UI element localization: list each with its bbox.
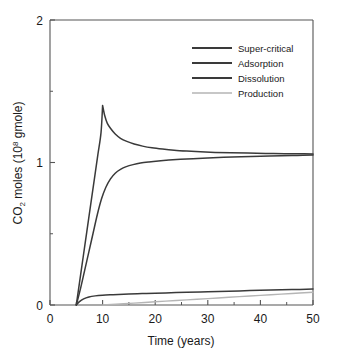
x-axis-title: Time (years) [148,334,215,348]
x-tick-label-20: 20 [149,312,163,326]
legend-label-production: Production [238,88,283,99]
co2-moles-vs-time-line-chart: 01020304050 012 Time (years) CO2 moles (… [0,0,341,362]
chart-figure: 01020304050 012 Time (years) CO2 moles (… [0,0,341,362]
y-tick-label-1: 1 [36,156,43,170]
x-tick-label-0: 0 [47,312,54,326]
x-tick-label-40: 40 [254,312,268,326]
x-tick-label-50: 50 [306,312,320,326]
x-tick-label-30: 30 [201,312,215,326]
legend-label-super-critical: Super-critical [238,43,293,54]
y-tick-label-2: 2 [36,14,43,28]
chart-background [0,0,341,362]
legend-label-adsorption: Adsorption [238,58,283,69]
x-tick-label-10: 10 [96,312,110,326]
y-tick-label-0: 0 [36,299,43,313]
legend-label-dissolution: Dissolution [238,73,284,84]
